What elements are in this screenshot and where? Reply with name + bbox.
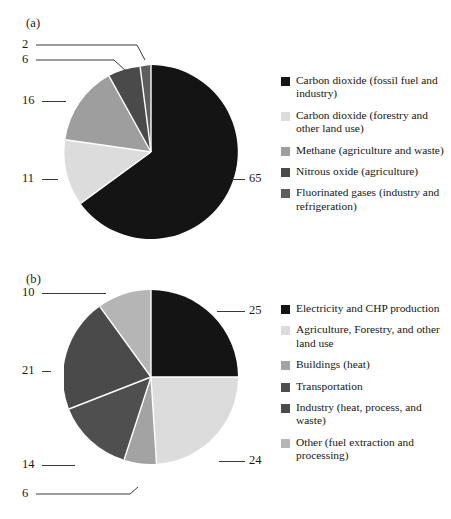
legend-swatch-icon [281,189,290,198]
callout-value-14: 14 [22,458,35,471]
legend-label: Agriculture, Forestry, and other land us… [296,323,449,350]
callout-value-6b: 6 [22,487,28,500]
legend-item: Buildings (heat) [281,358,449,371]
callout-value-24: 24 [249,454,262,467]
legend-swatch-icon [281,77,290,86]
legend-label: Other (fuel extraction and processing) [296,436,449,463]
legend-swatch-icon [281,147,290,156]
leader-line-6b [36,487,151,507]
leader-line-65 [232,179,245,180]
leader-line-25 [217,311,245,312]
leader-line-16 [42,101,66,102]
legend-label: Carbon dioxide (fossil fuel and industry… [296,74,449,101]
leader-line-6 [36,53,136,79]
legend-label: Industry (heat, process, and waste) [296,401,449,428]
legend-label: Nitrous oxide (agriculture) [296,165,418,178]
panel-a: (a) 2 6 [0,0,451,262]
legend-swatch-icon [281,305,290,314]
pie-a-svg [64,65,238,239]
legend-label: Electricity and CHP production [296,302,440,315]
leader-line-21 [42,371,51,372]
legend-swatch-icon [281,404,290,413]
legend-item: Other (fuel extraction and processing) [281,436,449,463]
callout-value-2: 2 [22,38,28,51]
pie-b-slice-electricity [151,290,238,377]
callout-value-10: 10 [22,286,35,299]
legend-item: Industry (heat, process, and waste) [281,401,449,428]
legend-a: Carbon dioxide (fossil fuel and industry… [281,74,449,221]
callout-value-6: 6 [22,53,28,66]
leader-line-14 [42,465,75,466]
legend-item: Carbon dioxide (forestry and other land … [281,109,449,136]
pie-chart-b [64,290,238,464]
pie-chart-a [64,65,238,239]
callout-value-11: 11 [22,172,34,185]
legend-label: Carbon dioxide (forestry and other land … [296,109,449,136]
legend-swatch-icon [281,383,290,392]
legend-swatch-icon [281,168,290,177]
legend-swatch-icon [281,439,290,448]
panel-a-tag: (a) [26,16,40,31]
leader-line-24 [219,461,245,462]
legend-label: Methane (agriculture and waste) [296,144,444,157]
legend-label: Fluorinated gases (industry and refriger… [296,186,449,213]
legend-label: Transportation [296,380,363,393]
pie-b-slice-agriculture [151,377,238,464]
callout-value-16: 16 [22,94,35,107]
legend-swatch-icon [281,112,290,121]
legend-item: Fluorinated gases (industry and refriger… [281,186,449,213]
legend-swatch-icon [281,326,290,335]
leader-line-11 [42,179,58,180]
legend-item: Transportation [281,380,449,393]
legend-label: Buildings (heat) [296,358,370,371]
legend-item: Electricity and CHP production [281,302,449,315]
legend-swatch-icon [281,361,290,370]
legend-item: Agriculture, Forestry, and other land us… [281,323,449,350]
panel-b: (b) 10 21 [0,262,451,519]
callout-value-65: 65 [249,172,262,185]
callout-value-21: 21 [22,364,35,377]
legend-item: Methane (agriculture and waste) [281,144,449,157]
callout-value-25: 25 [249,304,262,317]
legend-item: Carbon dioxide (fossil fuel and industry… [281,74,449,101]
leader-line-10 [42,293,106,294]
legend-item: Nitrous oxide (agriculture) [281,165,449,178]
legend-b: Electricity and CHP production Agricultu… [281,302,449,471]
pie-b-svg [64,290,238,464]
